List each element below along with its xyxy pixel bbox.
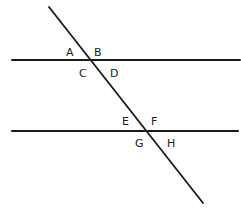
angle-label-g: G	[135, 137, 144, 150]
angle-label-b: B	[94, 46, 102, 59]
transversal-diagram: A B C D E F G H	[0, 0, 241, 213]
angle-label-c: C	[79, 67, 87, 80]
background	[0, 0, 241, 213]
angle-label-a: A	[66, 46, 74, 59]
angle-label-e: E	[122, 115, 129, 128]
angle-label-d: D	[110, 67, 118, 80]
angle-label-f: F	[151, 115, 157, 128]
angle-label-h: H	[167, 137, 175, 150]
